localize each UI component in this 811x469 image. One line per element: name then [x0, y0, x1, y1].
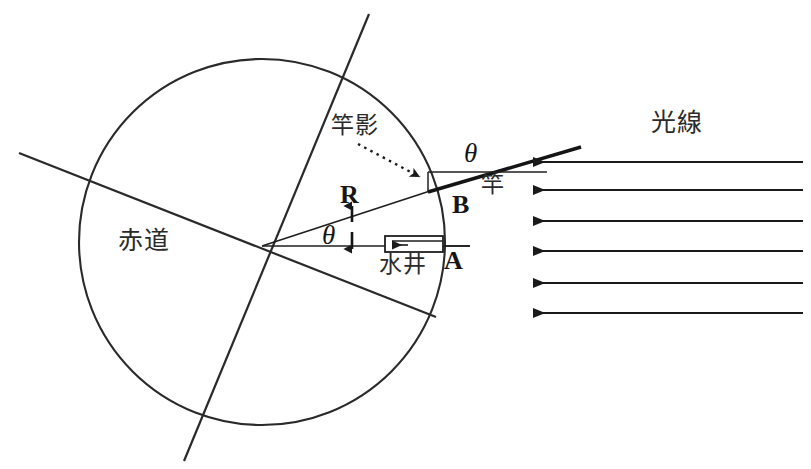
equator-line: [19, 153, 436, 317]
pole-label: 竿: [481, 173, 505, 196]
light-rays-label: 光線: [651, 110, 703, 135]
equator-label: 赤道: [118, 228, 170, 253]
pole-shadow-label: 竿影: [331, 114, 379, 137]
diagram-canvas: 赤道 竿影 光線 竿 水井 R A B θ θ: [0, 0, 811, 469]
pole-angle-label: θ: [464, 140, 477, 167]
water-well-rect: [385, 236, 443, 252]
earth-axis-line: [184, 14, 369, 461]
radius-label: R: [340, 182, 359, 208]
point-b-label: B: [452, 192, 469, 218]
central-angle-label: θ: [322, 222, 335, 249]
point-a-label: A: [444, 248, 463, 274]
shadow-callout-arrow: [358, 144, 420, 177]
water-well-label: 水井: [379, 253, 427, 276]
light-ray-group: [533, 162, 803, 313]
